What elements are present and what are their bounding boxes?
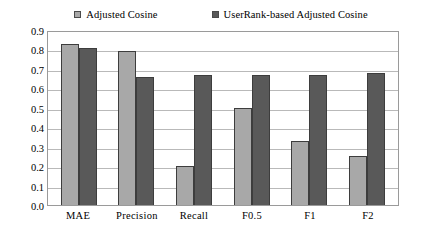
- x-axis-tick-label: MAE: [58, 210, 98, 222]
- bar-group-mae: [61, 32, 97, 205]
- y-axis-tick-label: 0.4: [31, 123, 44, 134]
- bar[interactable]: [136, 77, 154, 205]
- bars-layer: [48, 32, 398, 205]
- legend-item-adjusted-cosine[interactable]: Adjusted Cosine: [74, 9, 157, 20]
- y-axis-tick-label: 0.5: [31, 103, 44, 114]
- y-axis-tick-label: 0.1: [31, 181, 44, 192]
- bar[interactable]: [309, 75, 327, 205]
- legend-item-label: UserRank-based Adjusted Cosine: [224, 9, 368, 20]
- bar[interactable]: [61, 44, 79, 205]
- legend-swatch-icon: [74, 11, 81, 18]
- bar[interactable]: [79, 48, 97, 206]
- bar[interactable]: [252, 75, 270, 205]
- legend-item-userrank-based-adjusted-cosine[interactable]: UserRank-based Adjusted Cosine: [212, 9, 368, 20]
- bar[interactable]: [234, 108, 252, 205]
- bar[interactable]: [367, 73, 385, 205]
- x-axis: MAEPrecisionRecallF0.5F1F2: [47, 210, 399, 230]
- bar[interactable]: [176, 166, 194, 205]
- bar-group-f0-5: [234, 32, 270, 205]
- y-axis-tick-label: 0.3: [31, 142, 44, 153]
- x-axis-tick-label: F1: [290, 210, 330, 222]
- y-axis-tick-label: 0.0: [31, 201, 44, 212]
- bar-group-f2: [349, 32, 385, 205]
- x-axis-tick-label: Recall: [174, 210, 214, 222]
- y-axis: 0.90.80.70.60.50.40.30.20.10.0: [8, 31, 44, 206]
- y-axis-tick-label: 0.7: [31, 64, 44, 75]
- chart-legend: Adjusted Cosine UserRank-based Adjusted …: [0, 4, 424, 24]
- y-axis-tick-label: 0.6: [31, 84, 44, 95]
- legend-swatch-icon: [212, 11, 219, 18]
- bar-group-f1: [291, 32, 327, 205]
- bar[interactable]: [349, 156, 367, 205]
- bar[interactable]: [194, 75, 212, 205]
- y-axis-tick-label: 0.2: [31, 162, 44, 173]
- y-axis-tick-label: 0.8: [31, 45, 44, 56]
- legend-item-label: Adjusted Cosine: [86, 9, 157, 20]
- grouped-bar-chart: Adjusted Cosine UserRank-based Adjusted …: [0, 0, 424, 238]
- plot-area: [47, 31, 399, 206]
- plot-frame: [47, 31, 399, 206]
- x-axis-tick-label: F0.5: [232, 210, 272, 222]
- bar-group-precision: [118, 32, 154, 205]
- bar[interactable]: [118, 51, 136, 205]
- x-axis-tick-label: Precision: [116, 210, 156, 222]
- x-axis-tick-label: F2: [348, 210, 388, 222]
- bar-group-recall: [176, 32, 212, 205]
- bar[interactable]: [291, 141, 309, 205]
- y-axis-tick-label: 0.9: [31, 26, 44, 37]
